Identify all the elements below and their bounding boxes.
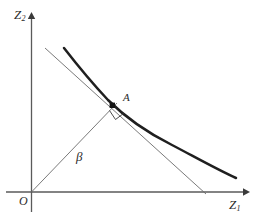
y-axis-label: Z2 — [14, 8, 25, 21]
y-axis-label-subscript: 2 — [21, 14, 25, 23]
origin-ray-line — [32, 103, 118, 192]
x-axis-label-subscript: 1 — [236, 204, 240, 213]
figure-canvas: Z2 Z1 O A β — [0, 0, 259, 224]
y-axis-arrowhead — [28, 12, 35, 19]
x-axis-label: Z1 — [229, 198, 240, 211]
point-a-marker — [110, 103, 115, 108]
isoquant-curve — [64, 48, 236, 178]
point-a-label: A — [123, 92, 130, 103]
x-axis-arrowhead — [243, 188, 250, 196]
figure-graphics — [0, 0, 259, 224]
angle-beta-label: β — [76, 150, 82, 163]
axes-group — [6, 12, 250, 212]
tangent-line — [45, 48, 206, 194]
origin-label: O — [19, 195, 28, 207]
